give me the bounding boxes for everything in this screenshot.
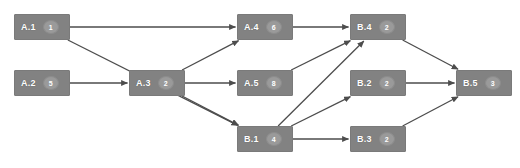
node-count-badge: 5 bbox=[43, 76, 59, 90]
node-label: A.1 bbox=[21, 23, 36, 32]
node-count-badge-text: 3 bbox=[491, 80, 495, 87]
node-count-badge: 8 bbox=[266, 76, 282, 90]
node-b-3[interactable]: B.32 bbox=[350, 126, 406, 152]
node-label: A.3 bbox=[136, 79, 151, 88]
node-count-badge-text: 1 bbox=[49, 24, 53, 31]
edge-b4-to-b5 bbox=[403, 40, 458, 69]
node-label: B.4 bbox=[357, 23, 372, 32]
node-a-1[interactable]: A.11 bbox=[14, 14, 70, 40]
edge-b3-to-b5 bbox=[403, 97, 458, 126]
node-a-4[interactable]: A.46 bbox=[237, 14, 293, 40]
node-count-badge-text: 5 bbox=[49, 80, 53, 87]
node-label: B.5 bbox=[463, 79, 478, 88]
node-label: A.4 bbox=[244, 23, 259, 32]
node-count-badge-text: 8 bbox=[272, 80, 276, 87]
node-count-badge-text: 2 bbox=[385, 24, 389, 31]
node-label: B.1 bbox=[244, 135, 259, 144]
node-a-2[interactable]: A.25 bbox=[14, 70, 70, 96]
node-count-badge-text: 4 bbox=[272, 136, 276, 143]
node-count-badge-text: 6 bbox=[272, 24, 276, 31]
node-count-badge: 2 bbox=[379, 132, 395, 146]
node-count-badge: 2 bbox=[379, 76, 395, 90]
node-b-4[interactable]: B.42 bbox=[350, 14, 406, 40]
node-b-5[interactable]: B.53 bbox=[456, 70, 512, 96]
node-count-badge: 2 bbox=[158, 76, 174, 90]
node-label: A.2 bbox=[21, 79, 36, 88]
node-count-badge: 3 bbox=[485, 76, 501, 90]
node-label: B.3 bbox=[357, 135, 372, 144]
node-label: A.5 bbox=[244, 79, 259, 88]
node-a-5[interactable]: A.58 bbox=[237, 70, 293, 96]
node-count-badge-text: 2 bbox=[385, 80, 389, 87]
node-label: B.2 bbox=[357, 79, 372, 88]
node-a-3[interactable]: A.32 bbox=[129, 70, 185, 96]
node-count-badge: 4 bbox=[266, 132, 282, 146]
node-count-badge: 6 bbox=[266, 20, 282, 34]
edge-b1-to-b2 bbox=[291, 97, 350, 126]
edge-a3-to-b1 bbox=[182, 96, 239, 125]
node-count-badge: 1 bbox=[43, 20, 59, 34]
node-count-badge: 2 bbox=[379, 20, 395, 34]
edge-a5-to-b4 bbox=[291, 41, 350, 70]
node-b-2[interactable]: B.22 bbox=[350, 70, 406, 96]
node-count-badge-text: 2 bbox=[164, 80, 168, 87]
diagram-canvas: A.11A.25A.32A.46A.58B.14B.42B.22B.32B.53 bbox=[0, 0, 520, 168]
node-count-badge-text: 2 bbox=[385, 136, 389, 143]
edge-a3-to-a4 bbox=[182, 41, 239, 70]
node-b-1[interactable]: B.14 bbox=[237, 126, 293, 152]
